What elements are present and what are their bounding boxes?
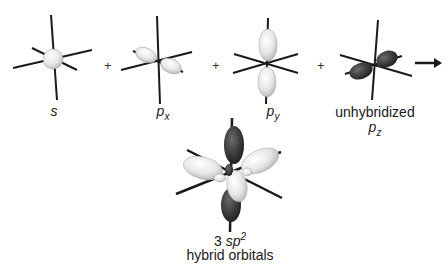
pz-label-subscript: z	[376, 127, 381, 138]
s-label: s	[46, 103, 62, 119]
px-label: px	[148, 103, 178, 122]
sp2-superscript: 2	[240, 231, 246, 242]
sp2-hybrid-orbitals	[176, 118, 283, 232]
sp2-count-label: 3 sp2	[180, 231, 280, 249]
px-label-subscript: x	[164, 111, 169, 122]
s-orbital	[13, 15, 92, 100]
pz-unhybridized-label: unhybridized	[325, 104, 425, 120]
pz-orbital	[340, 20, 412, 100]
sp2-caption: hybrid orbitals	[165, 247, 295, 263]
px-orbital	[121, 16, 192, 104]
pz-label: pz	[360, 119, 390, 138]
plus-sign-1: +	[104, 58, 112, 73]
py-orbital	[233, 18, 298, 104]
py-label: py	[258, 103, 288, 122]
plus-sign-2: +	[212, 58, 220, 73]
reaction-arrow	[415, 58, 442, 68]
py-label-subscript: y	[274, 111, 279, 122]
plus-sign-3: +	[317, 58, 325, 73]
